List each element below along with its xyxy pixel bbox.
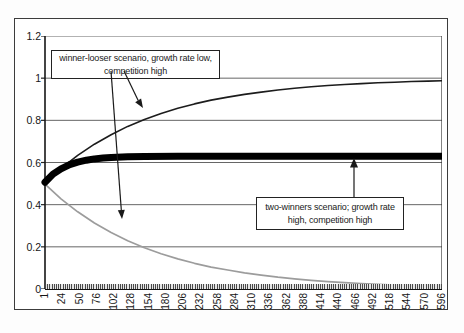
- x-tick-label-text: 24: [57, 293, 67, 304]
- x-tick-label: 258: [209, 293, 227, 317]
- x-tick-label-text: 1: [40, 293, 50, 299]
- x-tick-label: 336: [260, 293, 278, 317]
- x-tick-label: 180: [157, 293, 175, 317]
- x-tick-label-text: 50: [75, 293, 85, 304]
- x-tick-label-text: 154: [144, 293, 154, 310]
- x-tick-label-text: 596: [437, 293, 447, 310]
- x-tick-label: 24: [53, 293, 71, 317]
- x-tick-label-text: 440: [333, 293, 343, 310]
- series-line-1: [45, 81, 442, 183]
- annotation-line: high, competition high: [288, 214, 372, 227]
- x-tick-label-text: 128: [126, 293, 136, 310]
- x-tick-label-text: 362: [282, 293, 292, 310]
- x-tick-label-text: 336: [264, 293, 274, 310]
- y-tick-label: 1.2: [15, 30, 41, 42]
- chart-figure: 1.210.80.60.40.20 1245076102128154180206…: [14, 18, 448, 310]
- x-tick-label: 388: [295, 293, 313, 317]
- x-tick-label: 154: [140, 293, 158, 317]
- x-tick-label-text: 102: [109, 293, 119, 310]
- annotation-line: two-winners scenario; growth rate: [265, 201, 395, 214]
- x-tick-label-text: 570: [420, 293, 430, 310]
- annotation-box-two-winners: two-winners scenario; growth rate high, …: [256, 197, 404, 230]
- x-tick-label-text: 76: [92, 293, 102, 304]
- x-tick-label: 544: [398, 293, 416, 317]
- x-tick-label: 492: [364, 293, 382, 317]
- x-tick-label: 128: [122, 293, 140, 317]
- x-tick-label: 102: [105, 293, 123, 317]
- x-tick-label-text: 284: [230, 293, 240, 310]
- x-tick-label: 284: [226, 293, 244, 317]
- y-tick-label: 1: [15, 72, 41, 84]
- x-tick-label-text: 180: [161, 293, 171, 310]
- x-tick-label-text: 414: [316, 293, 326, 310]
- annotation-line: winner-looser scenario, growth rate low,: [59, 52, 212, 65]
- x-axis-tick-band: [45, 284, 442, 290]
- x-tick-label-text: 518: [385, 293, 395, 310]
- x-tick-label-text: 388: [299, 293, 309, 310]
- series-line-2: [45, 156, 442, 182]
- x-tick-label-text: 492: [368, 293, 378, 310]
- annotation-box-winner-looser: winner-looser scenario, growth rate low,…: [51, 50, 220, 79]
- x-tick-label: 232: [191, 293, 209, 317]
- x-tick-label: 50: [71, 293, 89, 317]
- x-tick-label: 596: [433, 293, 451, 317]
- scanned-chart-page: 1.210.80.60.40.20 1245076102128154180206…: [0, 0, 464, 333]
- x-tick-label: 310: [243, 293, 261, 317]
- x-tick-label: 76: [88, 293, 106, 317]
- x-tick-label-text: 258: [213, 293, 223, 310]
- x-tick-label: 414: [312, 293, 330, 317]
- y-tick-label: 0.4: [15, 199, 41, 211]
- y-tick-label: 0.6: [15, 157, 41, 169]
- x-tick-label: 570: [416, 293, 434, 317]
- annotation-line: competition high: [104, 65, 167, 78]
- x-tick-label: 518: [381, 293, 399, 317]
- x-tick-label-text: 466: [351, 293, 361, 310]
- x-tick-label-text: 206: [178, 293, 188, 310]
- x-tick-label: 466: [347, 293, 365, 317]
- x-tick-label-text: 544: [402, 293, 412, 310]
- x-tick-label: 1: [36, 293, 54, 317]
- x-tick-label-text: 232: [195, 293, 205, 310]
- x-tick-label-text: 310: [247, 293, 257, 310]
- y-tick-label: 0.8: [15, 114, 41, 126]
- x-tick-label: 362: [278, 293, 296, 317]
- x-tick-label: 440: [329, 293, 347, 317]
- x-tick-label: 206: [174, 293, 192, 317]
- y-tick-label: 0.2: [15, 241, 41, 253]
